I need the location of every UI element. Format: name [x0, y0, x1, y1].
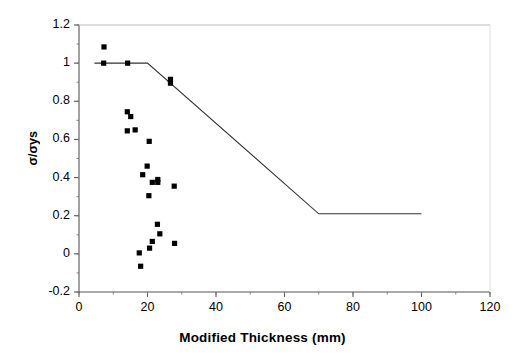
data-point	[147, 246, 152, 251]
x-tick-label: 40	[196, 300, 236, 314]
data-point	[172, 184, 177, 189]
x-tick-label: 100	[402, 300, 442, 314]
x-tick-label: 0	[59, 300, 99, 314]
data-point	[147, 139, 152, 144]
data-point	[137, 250, 142, 255]
data-point	[133, 127, 138, 132]
data-point	[146, 193, 151, 198]
data-point	[168, 81, 173, 86]
data-point	[138, 264, 143, 269]
data-point	[150, 180, 155, 185]
y-tick-label: -0.2	[30, 284, 70, 298]
y-tick-label: 1	[30, 55, 70, 69]
data-point	[125, 128, 130, 133]
data-point	[101, 44, 106, 49]
data-point	[172, 241, 177, 246]
data-point	[128, 114, 133, 119]
y-tick-label: 0	[30, 246, 70, 260]
x-axis-title: Modified Thickness (mm)	[0, 330, 525, 345]
data-point-markers	[101, 44, 177, 269]
y-axis-title: σ/σys	[26, 131, 44, 165]
data-point	[145, 164, 150, 169]
chart-figure: 1.210.80.60.40.20-0.2 020406080100120 σ/…	[0, 0, 525, 363]
data-point	[155, 180, 160, 185]
x-tick-label: 80	[333, 300, 373, 314]
axes-group	[74, 25, 490, 297]
x-tick-label: 120	[470, 300, 510, 314]
data-point	[155, 222, 160, 227]
y-tick-label: 0.2	[30, 208, 70, 222]
data-point	[140, 172, 145, 177]
data-point	[157, 231, 162, 236]
y-tick-label: 0.4	[30, 170, 70, 184]
design-curve-line	[94, 63, 421, 214]
x-tick-label: 20	[128, 300, 168, 314]
data-point	[101, 61, 106, 66]
y-tick-label: 0.8	[30, 93, 70, 107]
data-point	[125, 109, 130, 114]
x-tick-label: 60	[265, 300, 305, 314]
y-tick-label: 1.2	[30, 17, 70, 31]
data-point	[150, 239, 155, 244]
data-point	[125, 61, 130, 66]
